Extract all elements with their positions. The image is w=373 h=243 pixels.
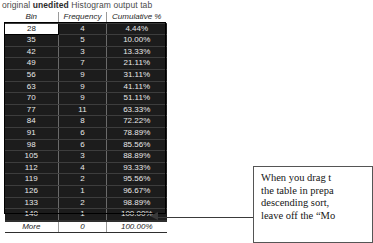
table-body: 2844.44%35510.00%42313.33%49721.11%56931… bbox=[5, 23, 167, 221]
table-row[interactable]: 63941.11% bbox=[5, 81, 167, 93]
cell-frequency[interactable]: 8 bbox=[59, 116, 107, 128]
cell-bin[interactable]: 91 bbox=[5, 127, 59, 139]
cell-frequency[interactable]: 6 bbox=[59, 139, 107, 151]
cell-frequency[interactable]: 2 bbox=[59, 174, 107, 186]
table-row[interactable]: 56931.11% bbox=[5, 69, 167, 81]
cell-frequency[interactable]: 3 bbox=[59, 151, 107, 163]
callout-line: the table in prepa bbox=[261, 185, 372, 198]
cell-frequency[interactable]: 11 bbox=[59, 104, 107, 116]
table-header-row: Bin Frequency Cumulative % bbox=[5, 12, 167, 23]
cell-cumulative[interactable]: 88.89% bbox=[107, 151, 167, 163]
cell-bin[interactable]: 119 bbox=[5, 174, 59, 186]
table-row[interactable]: 98685.56% bbox=[5, 139, 167, 151]
cell-cumulative[interactable]: 41.11% bbox=[107, 81, 167, 93]
cell-frequency[interactable]: 1 bbox=[59, 209, 107, 221]
cell-frequency[interactable]: 3 bbox=[59, 46, 107, 58]
callout-leader-line bbox=[156, 217, 254, 218]
cell-frequency[interactable]: 9 bbox=[59, 69, 107, 81]
cell-bin[interactable]: 98 bbox=[5, 139, 59, 151]
cell-cumulative[interactable]: 21.11% bbox=[107, 58, 167, 70]
cell-frequency[interactable]: 1 bbox=[59, 185, 107, 197]
caption-suffix: Histogram output tab bbox=[69, 0, 152, 10]
table-row[interactable]: 119295.56% bbox=[5, 174, 167, 186]
cell-bin[interactable]: 28 bbox=[5, 23, 59, 35]
cell-bin[interactable]: 112 bbox=[5, 162, 59, 174]
cell-bin[interactable]: 70 bbox=[5, 93, 59, 105]
annotation-callout: When you drag t the table in prepa desce… bbox=[253, 166, 373, 243]
caption-prefix: original bbox=[2, 0, 33, 10]
cell-bin[interactable]: 84 bbox=[5, 116, 59, 128]
cell-cumulative[interactable]: 13.33% bbox=[107, 46, 167, 58]
cell-frequency[interactable]: 9 bbox=[59, 81, 107, 93]
column-header-frequency[interactable]: Frequency bbox=[59, 12, 107, 23]
cell-bin[interactable]: 35 bbox=[5, 35, 59, 47]
cell-cumulative[interactable]: 98.89% bbox=[107, 197, 167, 209]
cell-cumulative[interactable]: 10.00% bbox=[107, 35, 167, 47]
table-row[interactable]: 70951.11% bbox=[5, 93, 167, 105]
callout-line: When you drag t bbox=[261, 172, 372, 185]
cell-cumulative[interactable]: 96.67% bbox=[107, 185, 167, 197]
table-row[interactable]: 126196.67% bbox=[5, 185, 167, 197]
cell-bin[interactable]: 133 bbox=[5, 197, 59, 209]
footer-cell-bin[interactable]: More bbox=[5, 221, 59, 233]
table-row[interactable]: 42313.33% bbox=[5, 46, 167, 58]
cell-frequency[interactable]: 7 bbox=[59, 58, 107, 70]
cell-cumulative[interactable]: 63.33% bbox=[107, 104, 167, 116]
footer-cell-cumulative[interactable]: 100.00% bbox=[107, 221, 167, 233]
table-row[interactable]: 771163.33% bbox=[5, 104, 167, 116]
cell-frequency[interactable]: 6 bbox=[59, 127, 107, 139]
cell-cumulative[interactable]: 51.11% bbox=[107, 93, 167, 105]
table-row[interactable]: 105388.89% bbox=[5, 151, 167, 163]
table-row[interactable]: 49721.11% bbox=[5, 58, 167, 70]
cell-bin[interactable]: 105 bbox=[5, 151, 59, 163]
column-header-bin[interactable]: Bin bbox=[5, 12, 59, 23]
cell-frequency[interactable]: 4 bbox=[59, 23, 107, 35]
cell-bin[interactable]: 77 bbox=[5, 104, 59, 116]
cell-frequency[interactable]: 2 bbox=[59, 197, 107, 209]
cell-cumulative[interactable]: 78.89% bbox=[107, 127, 167, 139]
cell-frequency[interactable]: 9 bbox=[59, 93, 107, 105]
cell-cumulative[interactable]: 93.33% bbox=[107, 162, 167, 174]
cell-cumulative[interactable]: 95.56% bbox=[107, 174, 167, 186]
cell-cumulative[interactable]: 4.44% bbox=[107, 23, 167, 35]
histogram-output-table[interactable]: Bin Frequency Cumulative % 2844.44%35510… bbox=[4, 12, 166, 233]
cell-bin[interactable]: 140 bbox=[5, 209, 59, 221]
table-row[interactable]: 2844.44% bbox=[5, 23, 167, 35]
footer-cell-frequency[interactable]: 0 bbox=[59, 221, 107, 233]
cell-bin[interactable]: 63 bbox=[5, 81, 59, 93]
caption-emphasis: unedited bbox=[33, 0, 69, 10]
callout-line: leave off the “Mo bbox=[261, 210, 372, 223]
cell-cumulative[interactable]: 72.22% bbox=[107, 116, 167, 128]
table-row[interactable]: 112493.33% bbox=[5, 162, 167, 174]
table-row[interactable]: 133298.89% bbox=[5, 197, 167, 209]
table-row[interactable]: 91678.89% bbox=[5, 127, 167, 139]
cell-cumulative[interactable]: 31.11% bbox=[107, 69, 167, 81]
figure-caption: original unedited Histogram output tab bbox=[2, 0, 202, 11]
column-header-cumulative[interactable]: Cumulative % bbox=[107, 12, 167, 23]
callout-line: descending sort, bbox=[261, 197, 372, 210]
table-row[interactable]: 1401100.00% bbox=[5, 209, 167, 221]
table-row[interactable]: 84872.22% bbox=[5, 116, 167, 128]
cell-bin[interactable]: 49 bbox=[5, 58, 59, 70]
table-footer-row[interactable]: More 0 100.00% bbox=[5, 221, 167, 233]
cell-cumulative[interactable]: 85.56% bbox=[107, 139, 167, 151]
cell-frequency[interactable]: 5 bbox=[59, 35, 107, 47]
cell-bin[interactable]: 56 bbox=[5, 69, 59, 81]
callout-arrow-icon bbox=[150, 212, 158, 220]
cell-bin[interactable]: 42 bbox=[5, 46, 59, 58]
table-row[interactable]: 35510.00% bbox=[5, 35, 167, 47]
cell-bin[interactable]: 126 bbox=[5, 185, 59, 197]
cell-frequency[interactable]: 4 bbox=[59, 162, 107, 174]
